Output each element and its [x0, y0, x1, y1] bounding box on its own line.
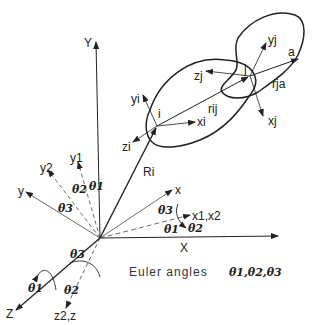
theta2-label-lower: θ2	[64, 284, 79, 297]
theta1-label-lower: θ1	[28, 282, 43, 295]
label-yi: yi	[131, 92, 140, 106]
caption-angles: θ1,θ2,θ3	[229, 266, 282, 279]
label-a: a	[288, 45, 295, 59]
label-x: x	[175, 183, 181, 197]
label-j: j	[243, 62, 247, 76]
xj-axis	[250, 76, 263, 116]
label-zj: zj	[194, 69, 203, 83]
label-zi: zi	[122, 140, 131, 154]
label-z2z: z2,z	[54, 309, 76, 323]
label-xi: xi	[197, 115, 206, 129]
theta3-label-lower: θ3	[70, 248, 85, 261]
theta1-label-right: θ1	[164, 223, 179, 236]
X-axis	[100, 236, 278, 238]
theta1-label-upper: θ1	[89, 180, 104, 193]
label-Ri: Ri	[143, 165, 154, 179]
y-axis	[26, 192, 100, 238]
theta2-label-upper: θ2	[72, 183, 87, 196]
label-rij: rij	[208, 102, 217, 116]
label-Y: Y	[84, 36, 92, 50]
label-y: y	[18, 184, 24, 198]
label-rja: rja	[272, 77, 286, 91]
theta3-label-right: θ3	[158, 204, 173, 217]
diagram-canvas: Y X Z x y z2,z y2 y1 x1,x2 θ1 θ2 θ3 θ3 θ…	[0, 0, 319, 325]
label-y2: y2	[40, 161, 53, 175]
theta2-label-right: θ2	[188, 222, 203, 235]
label-Z: Z	[6, 307, 13, 321]
caption-text: Euler angles	[129, 265, 208, 279]
label-x1x2: x1,x2	[192, 209, 221, 223]
theta3-label-upper: θ3	[58, 202, 73, 215]
theta2-arc	[70, 261, 100, 277]
euler-angles-diagram: Y X Z x y z2,z y2 y1 x1,x2 θ1 θ2 θ3 θ3 θ…	[0, 0, 319, 325]
label-i: i	[158, 107, 161, 121]
label-X: X	[180, 241, 188, 255]
label-xj: xj	[268, 114, 277, 128]
Y-axis	[96, 42, 100, 238]
label-yj: yj	[268, 33, 277, 47]
label-y1: y1	[70, 151, 83, 165]
Z-axis	[16, 238, 100, 310]
